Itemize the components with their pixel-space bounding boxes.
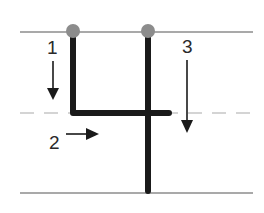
- arrow-1-head-icon: [47, 88, 59, 100]
- arrow-3-head-icon: [181, 120, 193, 133]
- step-2-label: 2: [49, 133, 60, 152]
- numeral-four-diagram: [0, 0, 264, 213]
- stroke-1-2-l-shape: [73, 34, 169, 113]
- step-3-label: 3: [182, 37, 193, 56]
- arrow-2-head-icon: [86, 128, 99, 140]
- start-dot-stroke-3: [141, 24, 155, 38]
- start-dot-stroke-1: [66, 24, 80, 38]
- step-1-label: 1: [47, 38, 58, 57]
